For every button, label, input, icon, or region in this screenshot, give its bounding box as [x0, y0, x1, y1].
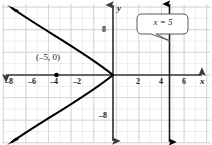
x-tick-label--2: –2 — [73, 77, 81, 86]
parabola-upper-arrowhead — [7, 5, 19, 12]
x-tick-label-4: 4 — [159, 77, 163, 86]
y-tick-label--8: –8 — [99, 111, 107, 120]
y-tick-label-8: 8 — [102, 25, 106, 34]
x-tick-label-2: 2 — [136, 77, 140, 86]
point-label-neg5-0: (–5, 0) — [36, 52, 60, 62]
x-tick-label--4: –4 — [50, 77, 58, 86]
x-axis-name: x — [200, 76, 205, 86]
callout-label: x = 5 — [146, 17, 180, 27]
parabola-lower-arrowhead — [7, 138, 19, 145]
x-tick-label-6: 6 — [182, 77, 186, 86]
x-tick-label--6: –6 — [28, 77, 36, 86]
y-axis-name: y — [117, 3, 121, 13]
graph-canvas — [0, 0, 212, 145]
coordinate-graph-figure: x = 5 (–5, 0) –8 –6 –4 –2 2 4 6 8 –8 x y — [0, 0, 212, 145]
x-tick-label--8: –8 — [5, 77, 13, 86]
